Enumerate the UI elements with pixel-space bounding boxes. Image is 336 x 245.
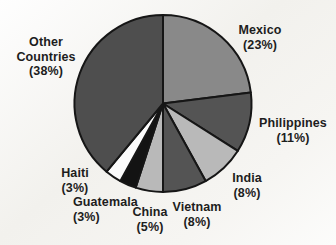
label-line: Haiti [61, 166, 89, 181]
slice-label-mexico: Mexico(23%) [239, 23, 282, 52]
label-line: Vietnam [172, 200, 221, 215]
slice-label-vietnam: Vietnam(8%) [172, 200, 221, 229]
label-line: (11%) [259, 131, 327, 146]
label-line: Philippines [259, 116, 327, 131]
slice-label-philippines: Philippines(11%) [259, 116, 327, 145]
label-line: (38%) [16, 64, 75, 79]
label-line: Mexico [239, 23, 282, 38]
label-line: (8%) [172, 215, 221, 230]
label-line: (8%) [232, 186, 262, 201]
label-line: Other [16, 35, 75, 50]
label-line: Countries [16, 50, 75, 65]
label-line: (23%) [239, 38, 282, 53]
label-line: Guatemala [73, 195, 138, 210]
label-line: (3%) [61, 181, 89, 196]
label-line: India [232, 171, 262, 186]
slice-label-india: India(8%) [232, 171, 262, 200]
slice-label-guatemala: Guatemala(3%) [73, 195, 138, 224]
slice-label-other-countries: OtherCountries(38%) [16, 35, 75, 79]
slice-label-haiti: Haiti(3%) [61, 166, 89, 195]
label-line: (3%) [73, 210, 138, 225]
pie-chart-figure: Mexico(23%)Philippines(11%)India(8%)Viet… [0, 0, 336, 245]
